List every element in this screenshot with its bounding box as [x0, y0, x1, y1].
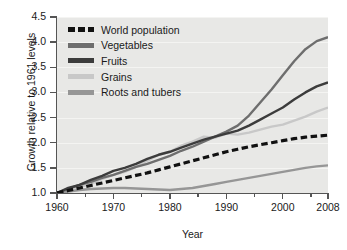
x-tick-minor [310, 193, 311, 197]
legend-label-fruits: Fruits [101, 55, 127, 67]
y-tick [50, 41, 57, 42]
chart-legend: World population Vegetables Fruits Grain… [68, 22, 181, 100]
y-tick [50, 92, 57, 93]
legend-swatch-roots-and-tubers [68, 90, 94, 95]
legend-swatch-grains [68, 74, 94, 79]
y-tick [50, 67, 57, 68]
y-tick [50, 117, 57, 118]
x-tick [226, 193, 227, 199]
legend-item-roots-and-tubers: Roots and tubers [68, 84, 181, 100]
x-axis-label: Year [57, 228, 328, 240]
legend-label-world-population: World population [101, 24, 180, 36]
x-tick-minor [197, 193, 198, 197]
y-tick-label: 4.5 [14, 10, 46, 22]
legend-swatch-world-population [68, 27, 94, 32]
y-tick-label: 3.0 [14, 85, 46, 97]
legend-item-fruits: Fruits [68, 53, 181, 69]
x-tick [282, 193, 283, 199]
y-tick-label: 1.0 [14, 186, 46, 198]
legend-item-world-population: World population [68, 22, 181, 38]
x-tick-minor [85, 193, 86, 197]
x-tick-minor [141, 193, 142, 197]
x-tick-minor [254, 193, 255, 197]
x-tick [113, 193, 114, 199]
legend-label-roots-and-tubers: Roots and tubers [101, 86, 181, 98]
x-tick [56, 193, 57, 199]
y-tick-label: 3.5 [14, 60, 46, 72]
legend-item-grains: Grains [68, 69, 181, 85]
x-tick [169, 193, 170, 199]
legend-item-vegetables: Vegetables [68, 38, 181, 54]
x-tick-label: 1960 [35, 201, 79, 213]
x-tick-label: 1970 [92, 201, 136, 213]
y-tick-label: 4.0 [14, 35, 46, 47]
y-tick [50, 16, 57, 17]
x-tick-label: 1980 [148, 201, 192, 213]
growth-relative-to-1961-line-chart: Growth relative to 1961 levels Year 1.01… [0, 0, 347, 250]
legend-label-vegetables: Vegetables [101, 39, 153, 51]
y-tick [50, 167, 57, 168]
y-tick-label: 2.0 [14, 136, 46, 148]
y-tick [50, 142, 57, 143]
x-tick-label: 1990 [204, 201, 248, 213]
legend-swatch-vegetables [68, 43, 94, 48]
x-tick-label: 2008 [306, 201, 347, 213]
legend-swatch-fruits [68, 58, 94, 63]
x-axis-line [56, 193, 328, 194]
x-tick [327, 193, 328, 199]
y-tick-label: 1.5 [14, 161, 46, 173]
legend-label-grains: Grains [101, 71, 132, 83]
x-tick-label: 2000 [261, 201, 305, 213]
y-tick-label: 2.5 [14, 111, 46, 123]
